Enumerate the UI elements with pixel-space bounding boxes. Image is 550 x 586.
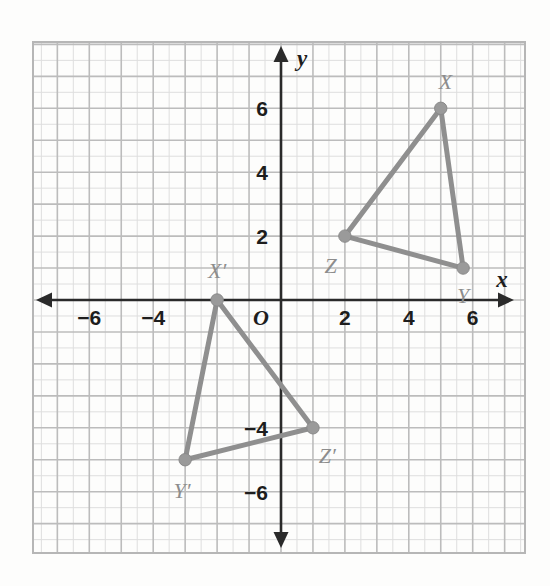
vertex-label: X (438, 69, 454, 94)
grid-frame (33, 42, 525, 553)
vertex-label: Z (324, 253, 337, 278)
y-tick-label: −6 (244, 481, 268, 504)
vertex-point (307, 422, 319, 434)
vertex-point (457, 262, 469, 274)
y-axis-label: y (294, 46, 308, 71)
coordinate-plane-figure: −6−4246642−4−6Oxy XYZX′Y′Z′ (0, 0, 550, 586)
grid-minor-lines (33, 42, 525, 553)
x-tick-label: 2 (339, 306, 351, 329)
vertex-point (211, 294, 223, 306)
vertex-label: Z′ (319, 443, 337, 468)
vertex-labels: XYZX′Y′Z′ (173, 69, 472, 503)
x-axis-label: x (495, 267, 508, 292)
vertex-point (179, 454, 191, 466)
x-tick-label: 6 (467, 306, 479, 329)
vertex-label: Y (457, 283, 472, 308)
x-tick-label: −6 (77, 306, 101, 329)
y-tick-label: 4 (256, 161, 268, 184)
y-tick-label: 6 (256, 97, 268, 120)
vertex-label: X′ (207, 258, 227, 283)
origin-label: O (253, 305, 269, 330)
y-tick-label: −4 (244, 417, 268, 440)
figure-root: −6−4246642−4−6Oxy XYZX′Y′Z′ (0, 0, 550, 586)
x-tick-label: 4 (403, 306, 415, 329)
x-tick-label: −4 (141, 306, 165, 329)
y-tick-label: 2 (256, 225, 268, 248)
vertex-point (435, 102, 447, 114)
grid-major-lines (33, 42, 525, 553)
vertex-point (339, 230, 351, 242)
vertex-label: Y′ (173, 478, 191, 503)
